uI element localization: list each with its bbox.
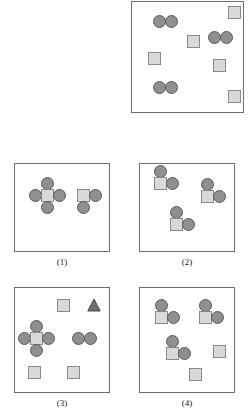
circle-shape: [89, 189, 102, 202]
circle-shape: [42, 332, 55, 345]
circle-shape: [30, 344, 43, 357]
circle-shape: [53, 189, 66, 202]
circle-shape: [213, 190, 226, 203]
square-shape: [213, 59, 226, 72]
square-shape: [189, 368, 202, 381]
circle-shape: [182, 218, 195, 231]
circle-shape: [84, 332, 97, 345]
panel-caption: (3): [14, 398, 110, 409]
panel-2: [139, 163, 235, 252]
circle-shape: [41, 201, 54, 214]
square-shape: [148, 52, 161, 65]
square-shape: [57, 299, 70, 312]
circle-shape: [165, 81, 178, 94]
triangle-shape: [87, 298, 101, 312]
circle-shape: [77, 201, 90, 214]
panel-4: [139, 287, 235, 393]
panel-3: [14, 287, 110, 393]
shape-pattern-figure: (1)(2)(3)(4): [0, 0, 249, 417]
square-shape: [228, 90, 241, 103]
circle-shape: [178, 347, 191, 360]
panel-caption: (4): [139, 398, 235, 409]
circle-shape: [211, 311, 224, 324]
panel-1: [14, 163, 110, 252]
circle-shape: [166, 177, 179, 190]
circle-shape: [165, 15, 178, 28]
panel-caption: (2): [139, 257, 235, 268]
square-shape: [187, 35, 200, 48]
circle-shape: [167, 311, 180, 324]
square-shape: [67, 366, 80, 379]
panel-top-right: [131, 1, 244, 113]
panel-caption: (1): [14, 257, 110, 268]
square-shape: [228, 6, 241, 19]
square-shape: [28, 366, 41, 379]
square-shape: [213, 345, 226, 358]
circle-shape: [220, 31, 233, 44]
